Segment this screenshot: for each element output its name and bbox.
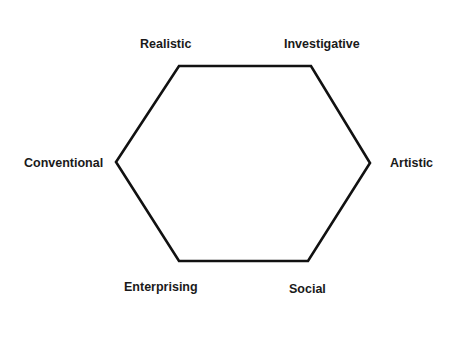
- label-social: Social: [289, 283, 326, 296]
- label-conventional: Conventional: [24, 157, 103, 170]
- label-artistic: Artistic: [390, 157, 433, 170]
- label-realistic: Realistic: [140, 38, 191, 51]
- label-investigative: Investigative: [284, 38, 360, 51]
- label-enterprising: Enterprising: [124, 281, 198, 294]
- hexagon-shape: [0, 0, 460, 341]
